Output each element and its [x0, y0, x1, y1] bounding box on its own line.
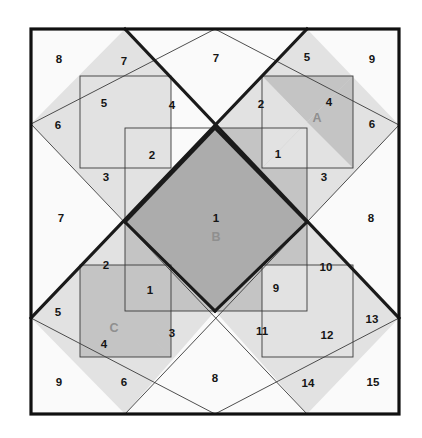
- region-label-3-right: 3: [321, 171, 327, 183]
- region-label-15-bottomright: 15: [367, 376, 380, 388]
- region-label-C: C: [109, 321, 118, 335]
- region-label-2-lowerleft: 2: [103, 259, 109, 271]
- region-label-10-lowerright: 10: [320, 261, 333, 273]
- region-label-9-bottomleft: 9: [56, 376, 62, 388]
- region-label-12-lower: 12: [321, 329, 334, 341]
- region-label-1-center: 1: [213, 212, 220, 224]
- region-label-4-upperright: 4: [326, 96, 333, 108]
- region-label-6-bottom: 6: [121, 376, 127, 388]
- region-label-1-lowerleft: 1: [147, 284, 154, 296]
- region-label-7-topleft: 7: [121, 55, 127, 67]
- region-label-14-bottom: 14: [302, 377, 315, 389]
- region-label-8-rightmid: 8: [368, 212, 375, 224]
- region-label-3-left: 3: [103, 171, 109, 183]
- region-label-9-lowerright: 9: [273, 282, 279, 294]
- region-label-9-topright: 9: [369, 53, 375, 65]
- region-label-4-upperleft: 4: [169, 99, 176, 111]
- region-label-4-lowerleft: 4: [101, 338, 108, 350]
- region-label-6-right: 6: [369, 118, 375, 130]
- region-label-5-lowerleft: 5: [55, 306, 62, 318]
- region-label-1-innerright: 1: [275, 148, 282, 160]
- region-label-B: B: [211, 230, 220, 244]
- square-tiling-diagram: 8 7 7 5 9 6 5 4 2 4 6 2 1 3 3 7 1 8 2 10…: [0, 0, 422, 438]
- region-label-2-innerleft: 2: [149, 149, 155, 161]
- region-label-7-topcenter: 7: [213, 52, 219, 64]
- region-label-6-left: 6: [55, 119, 61, 131]
- region-label-7-leftmid: 7: [58, 212, 64, 224]
- region-label-5-upperleft: 5: [101, 97, 108, 109]
- region-label-11-lower: 11: [256, 325, 269, 337]
- region-label-13-lowerright: 13: [366, 313, 379, 325]
- region-label-5-topright: 5: [304, 51, 311, 63]
- region-label-8-bottomcenter: 8: [212, 372, 219, 384]
- figure-root: 8 7 7 5 9 6 5 4 2 4 6 2 1 3 3 7 1 8 2 10…: [0, 0, 422, 438]
- region-label-2-upperright: 2: [258, 98, 264, 110]
- region-label-3-lower: 3: [169, 327, 175, 339]
- region-label-A: A: [312, 111, 321, 125]
- region-label-8-topleft: 8: [56, 53, 63, 65]
